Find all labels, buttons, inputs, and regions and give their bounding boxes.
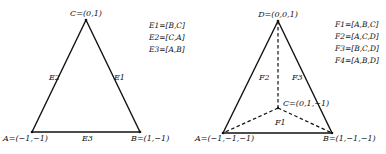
edge-e3-label: E3 [81, 134, 93, 143]
triangle-figure: C=(0,1) A=(−1,−1) B=(1,−1) E2 E1 E3 E1=[… [2, 9, 185, 143]
legend-e2: E2=[C,A] [148, 33, 185, 42]
legend-f3: F3=[B,C,D] [334, 44, 379, 53]
vertex-b-label: B=(1,−1) [130, 134, 169, 143]
vertex-c-dot [85, 19, 88, 22]
vertex-a-dot [31, 131, 34, 134]
legend-e3: E3=[A,B] [148, 45, 185, 54]
edge-legend: E1=[B,C] E2=[C,A] E3=[A,B] [148, 21, 185, 54]
vertex-a-label: A=(−1,−1) [2, 134, 48, 143]
legend-e1: E1=[B,C] [148, 21, 185, 30]
vertex-c-dot [277, 107, 279, 109]
edge-e2-label: E2 [48, 73, 60, 82]
edge-e1-label: E1 [113, 73, 125, 82]
vertex-b-dot [139, 131, 142, 134]
face-f3-label: F3 [291, 73, 303, 82]
edge-cb-hidden [278, 108, 332, 133]
vertex-c-label: C=(0,1) [70, 9, 102, 18]
legend-f1: F1=[A,B,C] [334, 20, 379, 29]
legend-f4: F4=[A,B,D] [334, 56, 379, 65]
vertex-b-label: B=(1,−1,−1) [322, 134, 376, 143]
face-f2-label: F2 [258, 73, 270, 82]
edge-db [278, 21, 332, 133]
vertex-d-dot [277, 20, 280, 23]
vertex-a-label: A=(−1,−1,−1) [194, 134, 254, 143]
edge-ca-hidden [223, 108, 278, 133]
tetrahedron-figure: D=(0,0,1) A=(−1,−1,−1) B=(1,−1,−1) C=(0,… [194, 10, 379, 143]
legend-f2: F2=[A,C,D] [334, 32, 379, 41]
face-legend: F1=[A,B,C] F2=[A,C,D] F3=[B,C,D] F4=[A,B… [334, 20, 379, 65]
vertex-d-label: D=(0,0,1) [257, 10, 298, 19]
edge-e1 [86, 20, 140, 132]
face-f1-label: F1 [274, 118, 286, 127]
diagram-canvas: C=(0,1) A=(−1,−1) B=(1,−1) E2 E1 E3 E1=[… [0, 0, 386, 154]
edge-da [223, 21, 278, 133]
vertex-c-label: C=(0,1,−1) [283, 99, 329, 108]
